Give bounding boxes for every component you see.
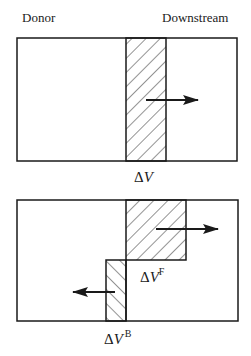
flow-diagram: Donor Downstream ΔV ΔVF ΔVB <box>0 0 251 356</box>
downstream-label: Downstream <box>162 10 228 25</box>
delta-v-caption: ΔV <box>134 169 155 185</box>
forward-volume-region <box>126 200 186 260</box>
top-panel: ΔV <box>17 38 237 185</box>
backward-volume-region <box>106 260 126 321</box>
donor-label: Donor <box>22 10 56 25</box>
delta-v-forward-caption: ΔVF <box>140 266 165 285</box>
bottom-panel: ΔVF ΔVB <box>17 200 238 347</box>
delta-v-backward-caption: ΔVB <box>104 328 132 347</box>
